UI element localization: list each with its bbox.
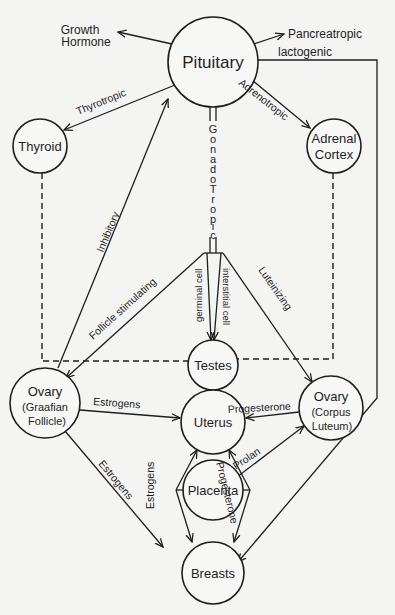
progesterone-uterus-label: Progesterone (227, 400, 291, 415)
pancreatropic-arrow (254, 34, 284, 44)
luteinizing-label: Luteinizing (256, 264, 295, 312)
node-breasts[interactable]: Breasts (182, 542, 244, 604)
ovary-luteum-line2: (Corpus (311, 406, 351, 418)
node-ovary-corpus-luteum[interactable]: Ovary (Corpus Luteum) (299, 376, 363, 440)
interstitial-cell-arrow (214, 253, 221, 340)
pituitary-label: Pituitary (182, 53, 244, 72)
testes-label: Testes (194, 358, 232, 373)
gonadotropic-label: G o n a d o T r o p i c (209, 123, 218, 241)
growth-hormone-arrow (118, 32, 172, 44)
adrenal-label-line2: Cortex (315, 147, 354, 162)
follicle-stimulating-arrow (66, 253, 204, 378)
thyroid-label: Thyroid (18, 139, 61, 154)
adrenotropic-label: Adrenotropic (237, 76, 291, 122)
germinal-cell-label: germinal cell (193, 269, 204, 322)
node-pituitary[interactable]: Pituitary (168, 17, 258, 107)
adrenal-dashed-link (238, 173, 333, 359)
estrogens-uterus-arrow (80, 410, 180, 418)
ovary-luteum-line3: Luteum) (312, 420, 352, 432)
estrogens-breasts-label: Estrogens (96, 458, 136, 502)
ovary-graafian-line1: Ovary (28, 384, 63, 399)
ovary-graafian-line3: Follicle) (28, 415, 66, 427)
node-ovary-graafian[interactable]: Ovary (Graafian Follicle) (10, 368, 80, 438)
follicle-stimulating-label: Follicle stimulating (86, 275, 158, 341)
breasts-label: Breasts (191, 566, 236, 581)
growth-label-line2: Hormone (61, 35, 111, 49)
estrogens-placenta-label: Estrogens (144, 462, 156, 509)
node-uterus[interactable]: Uterus (181, 390, 245, 454)
pancreatropic-label: Pancreatropic (288, 27, 362, 41)
ovary-graafian-line2: (Graafian (22, 401, 68, 413)
node-thyroid[interactable]: Thyroid (13, 119, 67, 173)
thyrotropic-label: Thyrotropic (74, 86, 127, 117)
endocrine-diagram: Pituitary Thyroid Adrenal Cortex Testes … (0, 0, 395, 615)
uterus-label: Uterus (194, 415, 233, 430)
interstitial-cell-label: interstitial cell (221, 268, 232, 325)
node-testes[interactable]: Testes (188, 340, 238, 390)
adrenal-label-line1: Adrenal (312, 131, 357, 146)
estrogens-uterus-label: Estrogens (93, 395, 141, 410)
node-adrenal-cortex[interactable]: Adrenal Cortex (307, 119, 361, 173)
ovary-luteum-line1: Ovary (314, 389, 349, 404)
gonadotropic-letter: c (210, 229, 216, 241)
prolan-label: Prolan (230, 445, 262, 472)
germinal-cell-arrow (207, 253, 211, 340)
lactogenic-label: lactogenic (278, 45, 332, 59)
